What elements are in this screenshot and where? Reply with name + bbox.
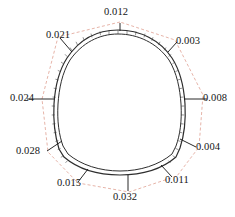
label-upper-left: 0.021 <box>46 30 70 41</box>
label-right: 0.008 <box>203 93 227 104</box>
label-lower-right: 0.004 <box>196 142 220 153</box>
label-bottom-left: 0.015 <box>57 178 81 189</box>
label-bottom: 0.032 <box>113 192 137 203</box>
leader-lower-right <box>180 139 196 147</box>
label-upper-right: 0.003 <box>176 36 200 47</box>
displacement-polygon <box>42 22 203 192</box>
label-bottom-right: 0.011 <box>165 175 189 186</box>
label-lower-left: 0.028 <box>16 146 40 157</box>
label-crown: 0.012 <box>104 7 128 18</box>
tunnel-displacement-figure <box>0 0 235 217</box>
label-left: 0.024 <box>10 93 34 104</box>
